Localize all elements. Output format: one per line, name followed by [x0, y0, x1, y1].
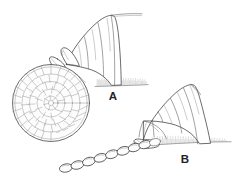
egg-disc — [13, 65, 90, 142]
figure-root: A — [0, 0, 242, 184]
panel-b-label: B — [181, 153, 190, 165]
panel-a-label: A — [109, 90, 118, 102]
scientific-illustration: A — [0, 0, 242, 184]
